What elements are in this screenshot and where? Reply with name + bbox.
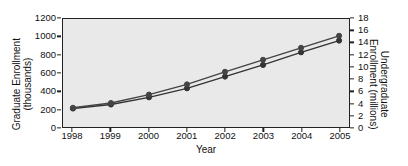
y-axis-right-tick-label: 2	[358, 111, 363, 121]
x-axis-tick-mark	[71, 128, 72, 132]
y-axis-right-tick-mark	[350, 103, 354, 104]
data-point-marker	[184, 82, 189, 87]
y-axis-left-tick-label: 600	[40, 68, 56, 78]
data-point-marker	[70, 105, 75, 110]
y-axis-right-tick-mark	[350, 30, 354, 31]
y-axis-right-title: Undergraduate Enrollment (millions)	[368, 24, 390, 144]
x-axis-tick-mark	[186, 128, 187, 132]
y-axis-left-tick-label: 1000	[35, 32, 56, 42]
x-axis-tick-label: 1999	[100, 131, 121, 141]
x-axis-tick-mark	[339, 128, 340, 132]
y-axis-right-tick-mark	[350, 54, 354, 55]
y-axis-left-tick-mark	[57, 17, 61, 18]
y-axis-left-tick-mark	[57, 109, 61, 110]
x-axis-tick-mark	[263, 128, 264, 132]
data-point-marker	[260, 57, 265, 62]
x-axis-tick-label: 2001	[176, 131, 197, 141]
y-axis-left-tick-label: 1200	[35, 13, 56, 23]
y-axis-left-title: Graduate Enrollment (thousands)	[11, 24, 33, 144]
x-axis-tick-label: 1998	[61, 131, 82, 141]
data-point-marker	[260, 62, 265, 67]
y-axis-right-tick-mark	[350, 127, 354, 128]
x-axis-tick-mark	[148, 128, 149, 132]
y-axis-left-tick-label: 800	[40, 50, 56, 60]
y-axis-right-tick-mark	[350, 42, 354, 43]
x-axis-tick-label: 2003	[253, 131, 274, 141]
x-axis-tick-mark	[110, 128, 111, 132]
y-axis-right-tick-label: 8	[358, 74, 363, 84]
x-axis-tick-label: 2000	[138, 131, 159, 141]
x-axis-tick-mark	[224, 128, 225, 132]
y-axis-left-tick-mark	[57, 36, 61, 37]
y-axis-left-tick-mark	[57, 54, 61, 55]
y-axis-left-tick-label: 0	[51, 123, 56, 133]
plot-area	[62, 18, 350, 128]
x-axis-title: Year	[62, 144, 350, 155]
data-point-marker	[222, 69, 227, 74]
chart-figure: 020040060080010001200 024681012141618 19…	[0, 0, 408, 166]
x-axis-tick-mark	[301, 128, 302, 132]
y-axis-left-tick-mark	[57, 72, 61, 73]
data-point-marker	[108, 100, 113, 105]
x-axis-tick-label: 2004	[291, 131, 312, 141]
y-axis-left-tick-label: 400	[40, 87, 56, 97]
series-layer	[63, 19, 349, 127]
x-axis-tick-label: 2005	[329, 131, 350, 141]
y-axis-left-tick-mark	[57, 127, 61, 128]
y-axis-right-tick-mark	[350, 17, 354, 18]
data-point-marker	[298, 45, 303, 50]
y-axis-right-tick-label: 0	[358, 123, 363, 133]
x-axis-tick-label: 2002	[215, 131, 236, 141]
y-axis-left-tick-mark	[57, 91, 61, 92]
data-point-marker	[146, 92, 151, 97]
y-axis-right-tick-mark	[350, 66, 354, 67]
y-axis-right-tick-mark	[350, 91, 354, 92]
y-axis-right-tick-label: 4	[358, 99, 363, 109]
y-axis-right-tick-mark	[350, 115, 354, 116]
y-axis-left-tick-label: 200	[40, 105, 56, 115]
y-axis-right-tick-mark	[350, 78, 354, 79]
data-point-marker	[336, 33, 341, 38]
y-axis-right-tick-label: 18	[358, 13, 369, 23]
y-axis-right-tick-label: 6	[358, 87, 363, 97]
